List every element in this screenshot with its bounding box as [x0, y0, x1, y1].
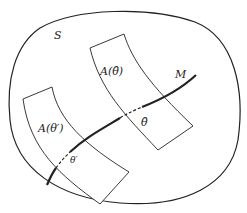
label-a-theta-hat: A(θ̂) — [99, 65, 123, 78]
label-theta-prime: θ′ — [70, 155, 77, 165]
label-s: S — [54, 29, 62, 42]
label-a-theta-prime: A(θ′) — [37, 122, 64, 135]
label-m: M — [174, 68, 187, 81]
label-theta-hat: θ̂ — [141, 116, 148, 129]
diagram-canvas: S M A(θ̂) A(θ′) θ̂ θ′ — [0, 0, 247, 213]
region-a-theta-hat — [90, 34, 193, 150]
